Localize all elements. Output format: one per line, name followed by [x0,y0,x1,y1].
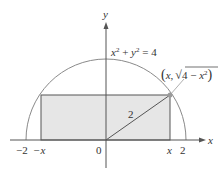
point-coordinate-label: (x,√4 − x2) [161,67,213,83]
radius-label: 2 [128,108,134,120]
equation-label: x2 + y2 = 4 [110,46,157,58]
tick-label-pos-x: x [166,144,172,156]
semicircle-inscribed-rectangle-diagram: y x x2 + y2 = 4 (x,√4 − x2) 2 −2 −x 0 x … [0,0,223,175]
tick-label-neg-two: −2 [16,144,28,156]
diagram-canvas: y x x2 + y2 = 4 (x,√4 − x2) 2 −2 −x 0 x … [0,0,223,175]
y-axis-label: y [102,8,108,20]
tick-label-neg-x: −x [33,144,45,156]
x-axis-label: x [207,134,213,146]
tick-label-origin: 0 [96,144,102,156]
corner-point [168,93,173,98]
y-axis-arrow-icon [104,22,109,29]
x-axis-arrow-icon [199,138,206,143]
tick-label-pos-two: 2 [180,144,186,156]
